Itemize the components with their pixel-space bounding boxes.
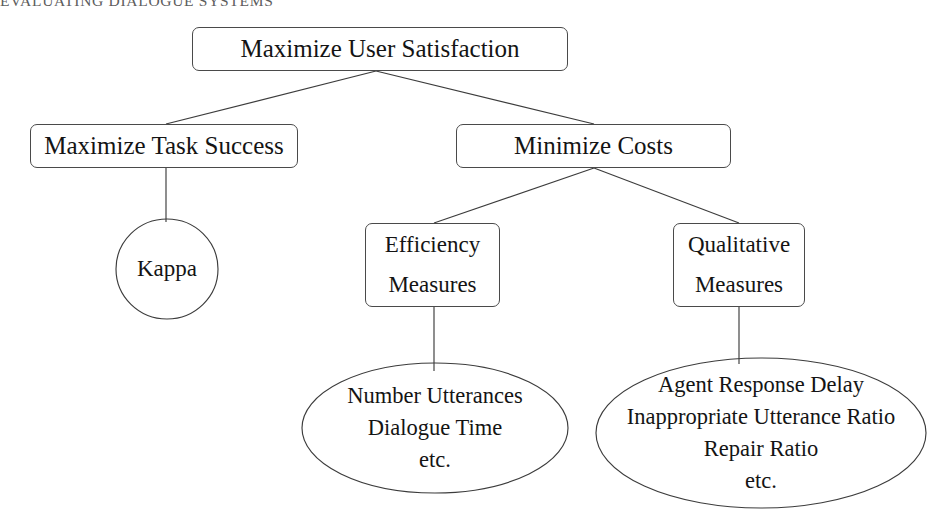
- kappa-circle-outline: [116, 219, 218, 319]
- node-label-line-1: Qualitative: [688, 225, 790, 265]
- efficiency-metrics-ellipse-outline: [302, 363, 568, 493]
- node-label: Maximize Task Success: [44, 132, 283, 160]
- node-label: Maximize User Satisfaction: [240, 35, 519, 63]
- node-label-line-2: Measures: [388, 265, 476, 305]
- node-label-line-2: Measures: [695, 265, 783, 305]
- edge-root-to-task-success: [166, 71, 376, 124]
- node-qualitative-measures: Qualitative Measures: [673, 223, 805, 307]
- node-maximize-task-success: Maximize Task Success: [30, 124, 298, 168]
- edge-root-to-minimize-costs: [376, 71, 594, 124]
- node-label: Minimize Costs: [514, 132, 673, 160]
- node-maximize-user-satisfaction: Maximize User Satisfaction: [192, 27, 568, 71]
- node-efficiency-measures: Efficiency Measures: [365, 223, 500, 307]
- qualitative-metrics-ellipse-outline: [596, 358, 926, 508]
- diagram-page: EVALUATING DIALOGUE SYSTEMS Maximize Use…: [0, 0, 933, 532]
- edge-minimize-costs-to-efficiency: [434, 168, 594, 223]
- node-label-line-1: Efficiency: [385, 225, 480, 265]
- edge-minimize-costs-to-qualitative: [594, 168, 739, 223]
- node-minimize-costs: Minimize Costs: [456, 124, 731, 168]
